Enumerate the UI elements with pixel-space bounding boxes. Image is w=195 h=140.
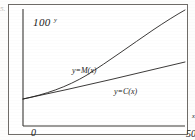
origin-label: 0 — [31, 128, 36, 138]
y-axis-title: y — [54, 17, 57, 24]
x-axis-title: x — [192, 113, 195, 120]
y-axis-max-label: 100 — [33, 17, 51, 28]
figure-frame: 100 y 0 50 x y=M(x) y=C(x) — [8, 4, 188, 135]
curve-c — [23, 62, 185, 99]
curve-c-label: y=C(x) — [114, 88, 137, 96]
figure-number-marker: 5. — [0, 3, 7, 15]
x-axis-max-label: 50 — [186, 129, 195, 139]
plot-area: 100 y 0 50 x y=M(x) y=C(x) — [15, 9, 187, 132]
curve-m-label: y=M(x) — [72, 67, 97, 75]
figure-canvas: 5. 100 y 0 50 x y=M(x) y=C(x) — [0, 0, 195, 140]
